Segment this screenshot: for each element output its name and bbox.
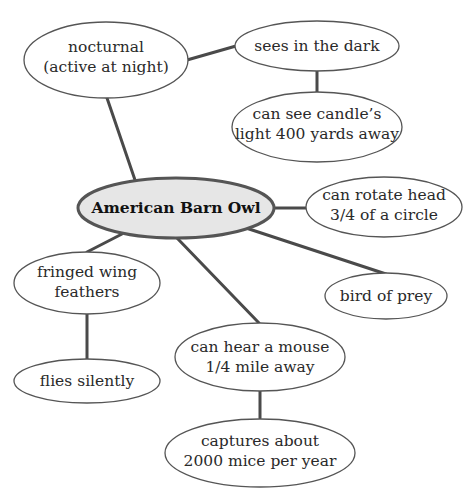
node-label-line: light 400 yards away bbox=[235, 125, 399, 143]
node-silent: flies silently bbox=[14, 359, 160, 403]
node-label-line: (active at night) bbox=[43, 58, 169, 76]
node-label-line: can see candle’s bbox=[253, 105, 382, 123]
node-label-line: nocturnal bbox=[68, 38, 144, 56]
node-fringed: fringed wing feathers bbox=[14, 252, 160, 314]
center-label: American Barn Owl bbox=[90, 198, 260, 217]
edge-center-hear bbox=[177, 238, 259, 323]
node-label-line: 1/4 mile away bbox=[205, 358, 314, 376]
edge-nocturnal-sees-dark bbox=[187, 46, 236, 60]
node-label-line: bird of prey bbox=[340, 287, 433, 305]
node-label-line: feathers bbox=[55, 283, 120, 301]
node-label-line: captures about bbox=[201, 432, 320, 450]
node-prey: bird of prey bbox=[325, 273, 447, 319]
edge-center-nocturnal bbox=[107, 98, 135, 180]
node-ellipse bbox=[175, 323, 345, 391]
node-candle: can see candle’s light 400 yards away bbox=[232, 92, 402, 162]
node-hear: can hear a mouse 1/4 mile away bbox=[175, 323, 345, 391]
node-label-line: 3/4 of a circle bbox=[330, 206, 438, 224]
edge-center-fringed bbox=[87, 234, 122, 252]
node-nocturnal: nocturnal (active at night) bbox=[24, 22, 188, 98]
node-center: American Barn Owl bbox=[78, 178, 274, 238]
node-sees-dark: sees in the dark bbox=[235, 21, 399, 71]
node-label-line: fringed wing bbox=[37, 263, 137, 281]
node-label-line: sees in the dark bbox=[254, 37, 380, 55]
concept-map: nocturnal (active at night) sees in the … bbox=[0, 0, 472, 500]
node-captures: captures about 2000 mice per year bbox=[165, 419, 355, 487]
node-label-line: flies silently bbox=[40, 372, 135, 390]
node-label-line: can hear a mouse bbox=[191, 338, 330, 356]
node-label-line: can rotate head bbox=[322, 186, 446, 204]
node-label-line: 2000 mice per year bbox=[184, 452, 337, 470]
node-rotate: can rotate head 3/4 of a circle bbox=[306, 177, 462, 237]
